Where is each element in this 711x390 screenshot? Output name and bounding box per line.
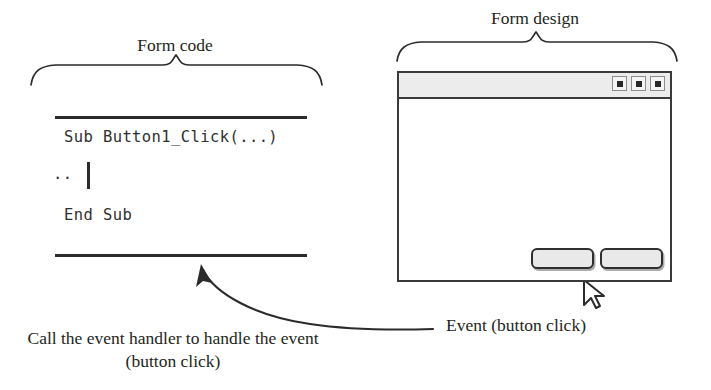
close-icon bbox=[655, 81, 661, 87]
form-code-block: Sub Button1_Click(...) .. End Sub bbox=[55, 112, 307, 260]
window-client-area bbox=[399, 99, 670, 280]
code-block-bottom-rule bbox=[55, 254, 307, 257]
close-button[interactable] bbox=[650, 76, 665, 91]
callback-arrowhead bbox=[196, 264, 212, 287]
form-code-brace bbox=[31, 55, 322, 85]
maximize-icon bbox=[636, 81, 642, 87]
titlebar-button-group bbox=[612, 76, 665, 91]
minimize-icon bbox=[617, 81, 623, 87]
minimize-button[interactable] bbox=[612, 76, 627, 91]
window-titlebar bbox=[399, 73, 670, 99]
form-design-brace bbox=[397, 32, 677, 61]
form-design-bracket-label: Form design bbox=[395, 9, 675, 29]
code-line-end-sub: End Sub bbox=[64, 206, 132, 224]
event-annotation-label: Event (button click) bbox=[446, 316, 586, 336]
call-handler-caption: Call the event handler to handle the eve… bbox=[8, 327, 338, 373]
form-design-window bbox=[397, 71, 672, 282]
form-button-1[interactable] bbox=[531, 248, 594, 269]
maximize-button[interactable] bbox=[631, 76, 646, 91]
code-line-body: .. bbox=[53, 165, 72, 183]
text-cursor-caret bbox=[87, 162, 90, 189]
form-button-2[interactable] bbox=[600, 248, 663, 269]
mouse-pointer-icon bbox=[584, 280, 604, 308]
code-line-sub-declaration: Sub Button1_Click(...) bbox=[64, 128, 278, 146]
form-code-bracket-label: Form code bbox=[0, 36, 350, 56]
code-block-top-rule bbox=[55, 116, 307, 119]
